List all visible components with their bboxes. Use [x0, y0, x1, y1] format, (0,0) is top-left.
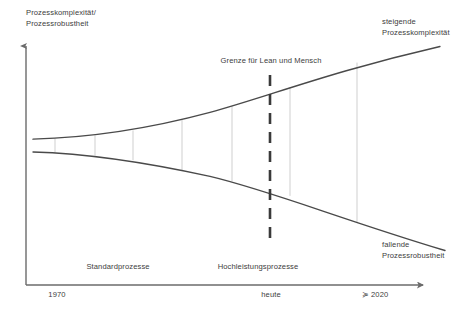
x-axis-tick-1970: 1970: [48, 290, 65, 301]
zone-label-standardprozesse: Standardprozesse: [86, 262, 149, 273]
boundary-line-label: Grenze für Lean und Mensch: [221, 56, 322, 67]
x-axis-tick-heute: heute: [261, 290, 281, 301]
falling-robustness-label: fallende Prozessrobustheit: [382, 240, 444, 261]
curve-falling-robustness: [33, 152, 445, 251]
x-axis-tick-2020: ≽ 2020: [362, 290, 389, 301]
funnel-connectors: [55, 63, 357, 223]
zone-label-hochleistungsprozesse: Hochleistungsprozesse: [218, 262, 299, 273]
diagram-canvas: Prozesskomplexität/ Prozessrobustheit st…: [0, 0, 464, 309]
rising-complexity-label: steigende Prozesskomplexität: [382, 17, 450, 38]
y-axis-label: Prozesskomplexität/ Prozessrobustheit: [26, 8, 96, 29]
